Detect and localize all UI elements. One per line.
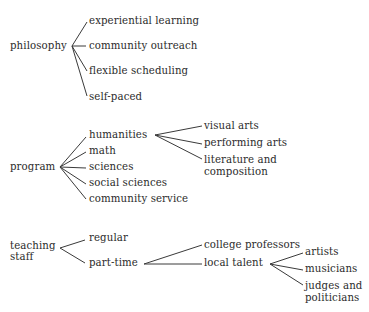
connector-philosophy-selfpaced bbox=[72, 46, 87, 96]
connector-humanities-performing bbox=[155, 135, 202, 144]
node-flexible-scheduling: flexible scheduling bbox=[89, 65, 188, 77]
connector-philosophy-experiential bbox=[72, 22, 87, 46]
node-community-service: community service bbox=[89, 193, 188, 205]
node-judges-line2: politicians bbox=[305, 292, 359, 304]
node-visual-arts: visual arts bbox=[204, 120, 259, 132]
node-program: program bbox=[10, 161, 55, 173]
connector-program-service bbox=[60, 167, 86, 199]
node-regular: regular bbox=[89, 232, 128, 244]
connector-local-artists bbox=[270, 253, 303, 264]
node-literature-line1: literature and bbox=[204, 154, 277, 166]
node-social-sciences: social sciences bbox=[89, 177, 167, 189]
connector-program-math bbox=[60, 152, 86, 167]
connector-program-humanities bbox=[60, 137, 86, 167]
connector-staff-parttime bbox=[60, 248, 85, 263]
connector-humanities-visual bbox=[155, 126, 202, 135]
connector-program-social bbox=[60, 167, 86, 184]
node-part-time: part-time bbox=[89, 257, 138, 269]
connector-parttime-professors bbox=[144, 245, 202, 264]
connector-humanities-literature bbox=[155, 135, 202, 159]
node-musicians: musicians bbox=[305, 263, 357, 275]
node-community-outreach: community outreach bbox=[89, 40, 197, 52]
node-self-paced: self-paced bbox=[89, 91, 142, 103]
connector-program-sciences bbox=[60, 167, 86, 168]
node-teaching-staff-line2: staff bbox=[10, 251, 33, 263]
node-local-talent: local talent bbox=[204, 257, 263, 269]
connector-staff-regular bbox=[60, 240, 85, 248]
node-judges-line1: judges and bbox=[305, 280, 362, 292]
node-artists: artists bbox=[305, 246, 339, 258]
node-math: math bbox=[89, 145, 116, 157]
node-sciences: sciences bbox=[89, 161, 134, 173]
node-humanities: humanities bbox=[89, 129, 147, 141]
connector-philosophy-flexible bbox=[72, 46, 87, 71]
node-experiential-learning: experiential learning bbox=[89, 15, 199, 27]
node-philosophy: philosophy bbox=[10, 40, 67, 52]
node-college-professors: college professors bbox=[204, 239, 300, 251]
node-literature-line2: composition bbox=[204, 166, 268, 178]
node-performing-arts: performing arts bbox=[204, 137, 287, 149]
concept-tree-diagram: philosophy experiential learning communi… bbox=[0, 0, 369, 312]
